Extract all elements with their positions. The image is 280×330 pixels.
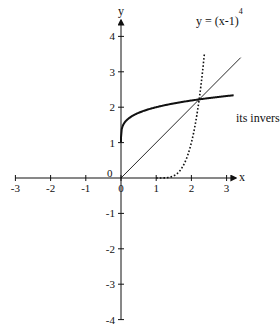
x-tick-label: -3 (11, 183, 20, 194)
inverse-label: its inverse (236, 113, 280, 124)
y-tick-label: 4 (110, 31, 116, 42)
x-tick-label: -2 (46, 183, 55, 194)
x-axis-label: x (239, 172, 245, 183)
y-tick-label: 3 (110, 66, 116, 77)
x-tick-label: 1 (153, 183, 159, 194)
y-tick-label: 2 (110, 102, 116, 113)
y-tick-label: -4 (106, 314, 115, 325)
curve-formula-label: y = (x-1)4 (196, 12, 243, 27)
y-tick-label: -3 (106, 279, 115, 290)
y-tick-label: -1 (106, 208, 115, 219)
x-tick-label: 3 (224, 183, 230, 194)
curves (121, 53, 241, 178)
chart-area: -3-2-101234321-1-2-3-4 x y 0 y = (x-1)4 … (0, 0, 280, 330)
axes (15, 20, 236, 320)
curve-inverse (121, 95, 234, 142)
y-tick-label: 1 (110, 137, 116, 148)
origin-label: 0 (107, 168, 113, 179)
plot-canvas (0, 0, 280, 330)
y-tick-label: -2 (106, 243, 115, 254)
line-y-equals-x (121, 58, 241, 178)
x-tick-label: -1 (81, 183, 90, 194)
curve-x-minus-1-to-4th (156, 53, 204, 178)
y-axis-label: y (118, 6, 124, 17)
exponent: 4 (239, 7, 243, 16)
x-tick-label: 0 (118, 183, 124, 194)
x-tick-label: 2 (189, 183, 195, 194)
